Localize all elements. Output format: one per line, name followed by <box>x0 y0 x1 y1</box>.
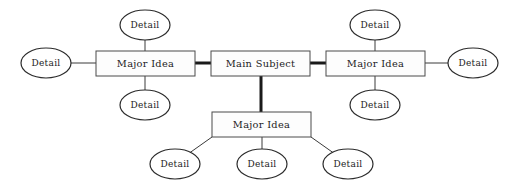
node-major-idea-bottom[interactable]: Major Idea <box>212 112 311 137</box>
mind-map-canvas: Detail Detail Detail Detail Detail Detai… <box>0 0 507 189</box>
node-major-idea-right[interactable]: Major Idea <box>326 51 425 76</box>
detail-label: Detail <box>130 100 159 110</box>
node-detail-right-top[interactable]: Detail <box>350 10 400 40</box>
node-detail-bottom-mid[interactable]: Detail <box>237 149 287 179</box>
main-subject-label: Main Subject <box>226 58 296 69</box>
node-detail-bottom-right[interactable]: Detail <box>323 149 373 179</box>
node-detail-left-top[interactable]: Detail <box>120 10 170 40</box>
major-idea-label: Major Idea <box>233 119 290 130</box>
node-detail-left-outer[interactable]: Detail <box>21 48 71 78</box>
detail-label: Detail <box>360 100 389 110</box>
major-idea-label: Major Idea <box>347 58 404 69</box>
detail-label: Detail <box>333 159 362 169</box>
detail-label: Detail <box>247 159 276 169</box>
detail-label: Detail <box>31 58 60 68</box>
mind-map-diagram: Detail Detail Detail Detail Detail Detai… <box>0 0 507 189</box>
node-detail-left-bottom[interactable]: Detail <box>120 90 170 120</box>
node-detail-right-bottom[interactable]: Detail <box>350 90 400 120</box>
detail-label: Detail <box>458 58 487 68</box>
detail-label: Detail <box>160 159 189 169</box>
major-idea-label: Major Idea <box>117 58 174 69</box>
edge-detail-bottom-left <box>188 137 212 154</box>
edge-detail-bottom-right <box>311 137 335 154</box>
node-detail-bottom-left[interactable]: Detail <box>150 149 200 179</box>
node-major-idea-left[interactable]: Major Idea <box>96 51 195 76</box>
node-detail-right-outer[interactable]: Detail <box>448 48 498 78</box>
node-main-subject[interactable]: Main Subject <box>211 51 310 76</box>
detail-label: Detail <box>360 20 389 30</box>
detail-label: Detail <box>130 20 159 30</box>
